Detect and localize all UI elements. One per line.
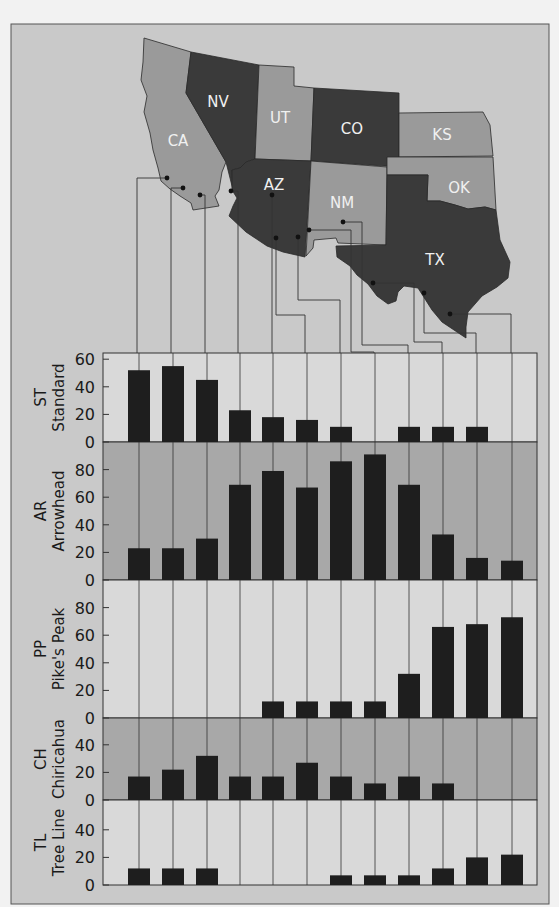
map-and-bar-chart-figure: CANVUTCOKSAZNMOKTX 0204060STStandard0204…	[0, 0, 559, 907]
bar-ar-site-4	[229, 485, 251, 580]
bar-pp-site-12	[501, 617, 523, 718]
bar-pp-site-11	[466, 624, 488, 718]
state-label-nm: NM	[330, 194, 354, 212]
y-tick-label: 20	[75, 405, 95, 424]
y-tick-label: 80	[75, 599, 95, 618]
bar-st-site-3	[196, 380, 218, 442]
bar-ch-site-5	[262, 777, 284, 800]
series-name-tl: Tree Line	[50, 809, 68, 877]
y-tick-label: 40	[75, 736, 95, 755]
y-tick-label: 60	[75, 488, 95, 507]
site-dot-7	[296, 235, 301, 240]
series-name-st: Standard	[50, 363, 68, 431]
bar-st-site-11	[466, 427, 488, 442]
bar-tl-site-7	[330, 875, 352, 885]
y-tick-label: 20	[75, 848, 95, 867]
site-dot-9	[341, 220, 346, 225]
bar-ar-site-6	[296, 488, 318, 580]
y-tick-label: 80	[75, 461, 95, 480]
bar-ar-site-5	[262, 471, 284, 580]
series-name-ar: Arrowhead	[50, 471, 68, 552]
y-tick-label: 60	[75, 350, 95, 369]
y-tick-label: 0	[85, 876, 95, 895]
site-dot-12	[448, 312, 453, 317]
bar-ar-site-3	[196, 539, 218, 580]
y-tick-label: 0	[85, 571, 95, 590]
series-code-pp: PP	[32, 640, 50, 658]
bar-tl-site-8	[364, 875, 386, 885]
site-dot-8	[307, 228, 312, 233]
series-code-tl: TL	[32, 833, 50, 852]
site-dot-3	[198, 193, 203, 198]
state-label-co: CO	[341, 120, 363, 138]
y-tick-label: 20	[75, 681, 95, 700]
figure-canvas: CANVUTCOKSAZNMOKTX 0204060STStandard0204…	[0, 0, 559, 907]
site-dot-4	[229, 189, 234, 194]
bar-ch-site-7	[330, 777, 352, 800]
y-tick-label: 0	[85, 791, 95, 810]
bar-st-site-4	[229, 410, 251, 442]
site-dot-5	[270, 193, 275, 198]
y-tick-label: 20	[75, 543, 95, 562]
bar-st-site-10	[432, 427, 454, 442]
bar-pp-site-9	[398, 674, 420, 718]
bar-pp-site-5	[262, 701, 284, 718]
bar-pp-site-7	[330, 701, 352, 718]
bar-tl-site-3	[196, 868, 218, 885]
state-label-az: AZ	[264, 176, 285, 194]
bar-tl-site-1	[128, 868, 150, 885]
bar-pp-site-8	[364, 701, 386, 718]
bar-ch-site-1	[128, 777, 150, 800]
bar-ch-site-8	[364, 783, 386, 800]
state-label-ks: KS	[432, 126, 451, 144]
bar-ch-site-4	[229, 777, 251, 800]
y-tick-label: 40	[75, 378, 95, 397]
bar-ar-site-12	[501, 561, 523, 580]
series-code-ch: CH	[32, 748, 50, 770]
state-label-nv: NV	[207, 93, 229, 111]
state-label-tx: TX	[424, 251, 444, 269]
bar-ch-site-2	[162, 770, 184, 800]
state-label-ca: CA	[168, 132, 189, 150]
bar-tl-site-11	[466, 857, 488, 885]
series-name-pp: Pike's Peak	[50, 607, 68, 690]
site-dot-10	[371, 281, 376, 286]
bar-tl-site-2	[162, 868, 184, 885]
bar-tl-site-9	[398, 875, 420, 885]
bar-ar-site-10	[432, 534, 454, 580]
bar-st-site-6	[296, 420, 318, 442]
y-tick-label: 0	[85, 709, 95, 728]
site-dot-2	[181, 186, 186, 191]
series-name-ch: Chiricahua	[50, 719, 68, 799]
bar-pp-site-6	[296, 701, 318, 718]
bar-ar-site-1	[128, 548, 150, 580]
bar-ar-site-11	[466, 558, 488, 580]
bar-pp-site-10	[432, 627, 454, 718]
bar-ch-site-6	[296, 763, 318, 800]
bar-tl-site-10	[432, 868, 454, 885]
site-dot-11	[422, 291, 427, 296]
series-code-st: ST	[32, 387, 50, 407]
bar-ar-site-9	[398, 485, 420, 580]
bar-ch-site-3	[196, 756, 218, 800]
bar-st-site-2	[162, 366, 184, 442]
bar-ar-site-7	[330, 461, 352, 580]
y-tick-label: 40	[75, 654, 95, 673]
bar-ch-site-9	[398, 777, 420, 800]
y-tick-label: 20	[75, 763, 95, 782]
bar-ar-site-8	[364, 454, 386, 580]
state-label-ok: OK	[448, 179, 471, 197]
y-tick-label: 60	[75, 626, 95, 645]
bar-st-site-1	[128, 370, 150, 442]
bar-st-site-9	[398, 427, 420, 442]
site-dot-1	[165, 176, 170, 181]
bar-tl-site-12	[501, 855, 523, 885]
bar-st-site-7	[330, 427, 352, 442]
series-code-ar: AR	[32, 501, 50, 522]
site-dot-6	[274, 236, 279, 241]
bar-ar-site-2	[162, 548, 184, 580]
bar-ch-site-10	[432, 783, 454, 800]
y-tick-label: 0	[85, 433, 95, 452]
y-tick-label: 40	[75, 516, 95, 535]
state-label-ut: UT	[270, 109, 291, 127]
